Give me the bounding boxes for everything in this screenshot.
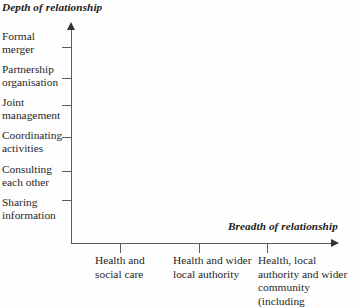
y-axis-tick-label: Coordinatingactivities (2, 129, 66, 156)
y-axis-tick-label-line: information (2, 209, 66, 222)
x-axis-arrow-icon (331, 239, 339, 247)
x-axis-tick-label-line: local authority (173, 268, 265, 282)
y-axis-tick-label-line: Partnership (2, 63, 66, 76)
y-axis-tick-label: Consultingeach other (2, 163, 66, 190)
x-axis-tick-label-line: Health, local (258, 254, 359, 268)
x-axis-tick-label-line: Health and (95, 254, 175, 268)
x-axis-tick-label-line: authority and wider (258, 268, 359, 282)
x-axis-title: Breadth of relationship (228, 220, 338, 232)
diagram-canvas: Depth of relationship Breadth of relatio… (0, 0, 359, 307)
x-axis-tick-label: Health andsocial care (95, 254, 175, 281)
y-axis-tick-label-line: Joint (2, 96, 66, 109)
x-axis-tick-label: Health, localauthority and widercommunit… (258, 254, 359, 307)
y-axis-tick-label-line: merger (2, 43, 66, 56)
y-axis-tick-label: Partnershiporganisation (2, 63, 66, 90)
y-axis-arrow-icon (67, 22, 75, 30)
x-axis-tick-label-line: social care (95, 268, 175, 282)
x-axis-tick-label: Health and widerlocal authority (173, 254, 265, 281)
y-axis-tick-label-line: Coordinating (2, 129, 66, 142)
y-axis-line (71, 28, 72, 244)
y-axis-tick-label-line: activities (2, 142, 66, 155)
x-axis-tick (120, 243, 121, 253)
x-axis-tick-label-line: community (including (258, 281, 359, 307)
y-axis-tick-label-line: organisation (2, 76, 66, 89)
y-axis-title: Depth of relationship (2, 1, 102, 13)
y-axis-tick-label: Formalmerger (2, 30, 66, 57)
x-axis-tick (199, 243, 200, 253)
y-axis-tick-label-line: Formal (2, 30, 66, 43)
x-axis-tick (267, 243, 268, 253)
y-axis-tick-label: Jointmanagement (2, 96, 66, 123)
y-axis-tick-label-line: Consulting (2, 163, 66, 176)
y-axis-tick-label-line: Sharing (2, 196, 66, 209)
y-axis-tick-label: Sharinginformation (2, 196, 66, 223)
y-axis-tick-label-line: management (2, 109, 66, 122)
y-axis-tick-label-line: each other (2, 176, 66, 189)
x-axis-tick-label-line: Health and wider (173, 254, 265, 268)
x-axis-line (71, 243, 333, 244)
